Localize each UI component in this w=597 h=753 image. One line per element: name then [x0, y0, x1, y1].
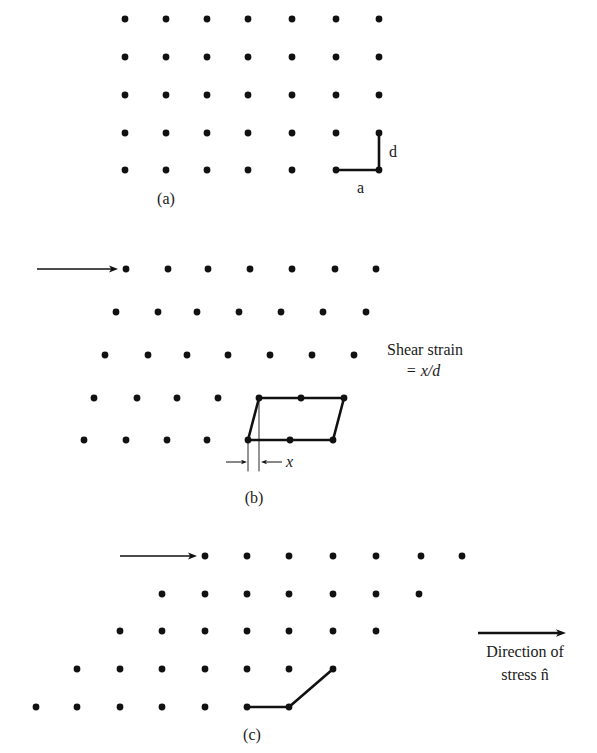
lattice-point [91, 395, 98, 402]
lattice-point [376, 92, 383, 99]
figure-label: d [389, 143, 397, 160]
lattice-point [204, 437, 211, 444]
lattice-point [363, 309, 370, 316]
lattice-spacing-lines [336, 133, 379, 170]
lattice-point [286, 591, 293, 598]
lattice-point [289, 92, 296, 99]
lattice-point [289, 54, 296, 61]
lattice-point [205, 266, 212, 273]
lattice-point [81, 437, 88, 444]
lattice-point [289, 130, 296, 137]
lattice-point [122, 54, 129, 61]
lattice-point [159, 591, 166, 598]
lattice-point [247, 266, 254, 273]
lattice-points [33, 553, 466, 711]
lattice-point [286, 628, 293, 635]
lattice-point [351, 352, 358, 359]
lattice-point [244, 591, 251, 598]
lattice-point [373, 628, 380, 635]
lattice-point [123, 437, 130, 444]
panel-b-caption: (b) [245, 489, 264, 507]
lattice-point [244, 666, 251, 673]
lattice-point [330, 591, 337, 598]
lattice-point [320, 309, 327, 316]
lattice-point [155, 309, 162, 316]
lattice-point [163, 54, 170, 61]
lattice-point [159, 666, 166, 673]
lattice-point [163, 16, 170, 23]
lattice-point [244, 628, 251, 635]
lattice-point [245, 54, 252, 61]
lattice-point [267, 352, 274, 359]
lattice-point [134, 395, 141, 402]
lattice-point [278, 309, 285, 316]
lattice-point [333, 16, 340, 23]
lattice-point [184, 352, 191, 359]
lattice-point [163, 130, 170, 137]
lattice-point [194, 309, 201, 316]
lattice-point [309, 352, 316, 359]
lattice-point [174, 395, 181, 402]
lattice-point [245, 167, 252, 174]
labels: Direction ofstress n̂ [486, 643, 564, 683]
lattice-point [74, 666, 81, 673]
sheared-unit-cell [248, 398, 344, 471]
figure-label: a [357, 179, 364, 196]
figure-label: = x/d [406, 362, 441, 379]
lattice-point [244, 553, 251, 560]
lattice-point [122, 167, 129, 174]
connector-line [248, 398, 344, 440]
lattice-point [416, 591, 423, 598]
lattice-point [202, 666, 209, 673]
lattice-point [418, 553, 425, 560]
panel-c-slip: Direction ofstress n̂ (c) [33, 553, 566, 744]
lattice-point [117, 704, 124, 711]
lattice-point [289, 16, 296, 23]
connector-line [247, 669, 333, 707]
lattice-point [289, 167, 296, 174]
lattice-point [113, 309, 120, 316]
lattice-point [202, 704, 209, 711]
lattice-point [236, 309, 243, 316]
lattice-point [289, 266, 296, 273]
panel-c-caption: (c) [243, 726, 261, 744]
lattice-point [245, 92, 252, 99]
arrows [120, 553, 566, 637]
lattice-point [373, 553, 380, 560]
lattice-point [333, 54, 340, 61]
lattice-point [122, 130, 129, 137]
slip-bond-lines [247, 669, 333, 707]
lattice-point [333, 130, 340, 137]
lattice-point [202, 553, 209, 560]
lattice-points [122, 16, 383, 174]
lattice-point [122, 92, 129, 99]
lattice-point [163, 167, 170, 174]
figure-label: Direction of [486, 643, 564, 660]
lattice-point [459, 553, 466, 560]
lattice-point [330, 628, 337, 635]
lattice-point [117, 628, 124, 635]
figure-label: Shear strain [387, 341, 463, 358]
lattice-point [122, 16, 129, 23]
figure-label: stress n̂ [501, 666, 549, 683]
lattice-point [159, 704, 166, 711]
lattice-point [204, 92, 211, 99]
lattice-point [376, 16, 383, 23]
lattice-point [215, 395, 222, 402]
figure-label: x [285, 453, 293, 470]
lattice-point [225, 352, 232, 359]
lattice-point [123, 266, 130, 273]
lattice-point [164, 437, 171, 444]
lattice-point [74, 704, 81, 711]
lattice-point [117, 666, 124, 673]
lattice-point [102, 352, 109, 359]
lattice-point [286, 553, 293, 560]
lattice-point [330, 553, 337, 560]
lattice-point [373, 591, 380, 598]
lattice-point [376, 54, 383, 61]
lattice-point [145, 352, 152, 359]
panel-a-caption: (a) [157, 190, 175, 208]
lattice-point [245, 130, 252, 137]
lattice-point [163, 92, 170, 99]
lattice-point [245, 16, 252, 23]
